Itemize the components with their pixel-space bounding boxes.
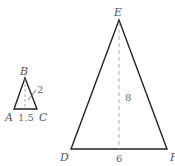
vertex-label-b: B	[19, 65, 28, 78]
vertex-label-f: F	[169, 151, 175, 164]
vertex-label-a: A	[4, 111, 13, 124]
small-height-leader	[28, 90, 36, 100]
large-triangle: E D F 6 8	[59, 6, 175, 164]
vertex-label-e: E	[113, 6, 122, 19]
large-height-label: 8	[125, 92, 131, 103]
small-triangle: B A C 1.5 2	[4, 65, 48, 124]
vertex-label-d: D	[59, 151, 69, 164]
small-height-label: 2	[37, 84, 43, 95]
vertex-label-c: C	[39, 111, 48, 124]
small-base-label: 1.5	[18, 112, 34, 123]
similar-triangles-diagram: B A C 1.5 2 E D F 6 8	[0, 0, 175, 166]
large-base-label: 6	[116, 153, 122, 164]
